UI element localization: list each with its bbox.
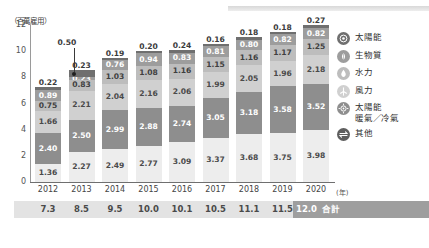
x-axis-line [30,182,335,183]
bar-segment: 1.16 [169,64,195,79]
bar-top-value-label: 0.23 [62,61,102,70]
legend-item-label: 水力 [355,67,373,78]
legend-item-label: 太陽能暖氣／冷氣 [355,102,399,123]
bar-segment: 1.15 [203,57,229,72]
segment-value-label: 3.52 [307,103,326,111]
x-axis-tick: 2015 [132,185,166,194]
bar-segment: 2.40 [35,133,61,164]
segment-value-label: 1.66 [39,118,58,126]
bar-segment: 2.88 [136,108,162,146]
segment-value-label: 0.75 [39,102,58,110]
bar-stack[interactable]: 0.831.162.062.743.09 [169,50,195,182]
bar-segment: 1.25 [303,39,329,55]
segment-value-label: 1.08 [139,69,158,77]
total-highlight-label: 合計 [322,201,340,218]
bar-stack[interactable]: 0.230.832.212.502.27 [69,70,95,182]
bar-segment: 2.49 [102,149,128,182]
segment-value-label: 3.75 [273,154,292,162]
segment-value-label: 0.82 [273,36,292,44]
bar-top-value-label: 0.22 [28,78,68,87]
segment-value-label: 0.76 [106,61,125,69]
legend-item-label: 風力 [355,85,373,96]
bar-stack[interactable]: 0.811.151.993.053.37 [203,44,229,182]
segment-value-label: 1.25 [307,43,326,51]
bar-segment: 2.18 [303,55,329,84]
x-axis-tick: 2013 [65,185,99,194]
solar-pv-icon [337,32,350,45]
legend-item-2[interactable]: 水力 [337,67,429,80]
bar-segment: 1.66 [35,111,61,133]
segment-value-label: 0.82 [307,30,326,38]
bar-segment: 1.36 [35,164,61,182]
bar-segment: 2.50 [69,120,95,153]
x-axis-tick: 2017 [199,185,233,194]
total-value: 11.1 [232,201,266,218]
legend-item-label: 其他 [355,128,373,139]
bar-stack[interactable]: 0.941.082.162.882.77 [136,51,162,182]
total-value: 9.5 [98,201,132,218]
segment-value-label: 2.88 [139,123,158,131]
legend-item-3[interactable]: 風力 [337,85,429,98]
legend-item-0[interactable]: 太陽能 [337,32,429,45]
segment-value-label: 2.49 [106,162,125,170]
segment-value-label: 2.16 [139,90,158,98]
other-arrows-icon [337,128,350,141]
bar-stack[interactable]: 0.801.162.053.183.68 [236,37,262,182]
bar-segment: 3.52 [303,84,329,130]
x-axis-tick: 2016 [165,185,199,194]
callout-leader-horizontal [74,48,75,49]
total-value: 10.0 [132,201,166,218]
segment-value-label: 2.06 [173,88,192,96]
bar-segment: 3.05 [203,98,229,138]
bar-stack[interactable]: 0.761.032.042.992.49 [102,58,128,182]
bar-stack[interactable]: 0.821.252.183.523.98 [303,25,329,182]
segment-value-label: 0.80 [240,41,259,49]
bar-segment: 1.17 [270,45,296,60]
bar-segment: 0.94 [136,53,162,65]
callout-anchor-dot [72,72,76,76]
bar-stack[interactable]: 0.821.171.963.583.75 [270,32,296,182]
segment-value-label: 3.09 [173,158,192,166]
top-decorative-band [228,6,429,11]
segment-value-label: 0.83 [72,81,91,89]
bar-segment: 1.16 [236,50,262,65]
bar-segment: 0.83 [69,80,95,91]
segment-value-label: 2.21 [72,101,91,109]
bar-stack[interactable]: 0.890.751.662.401.36 [35,87,61,182]
bar-segment: 2.04 [102,84,128,111]
segment-value-label: 1.16 [240,54,259,62]
segment-value-label: 1.99 [206,81,225,89]
segment-value-label: 3.98 [307,152,326,160]
legend-item-5[interactable]: 其他 [337,128,429,141]
bar-segment: 0.82 [303,28,329,39]
segment-value-label: 0.81 [206,48,225,56]
bar-segment: 2.06 [169,79,195,106]
legend-item-label: 生物質 [355,50,381,61]
total-value: 10.1 [165,201,199,218]
segment-value-label: 1.17 [273,49,292,57]
segment-value-label: 3.58 [273,106,292,114]
bar-segment: 0.89 [35,90,61,102]
legend-item-1[interactable]: 生物質 [337,50,429,63]
y-axis-tick: 10 [6,46,26,55]
bar-segment: 3.58 [270,86,296,133]
legend-item-4[interactable]: 太陽能暖氣／冷氣 [337,102,429,123]
bar-segment: 3.75 [270,133,296,182]
segment-value-label: 2.18 [307,66,326,74]
bar-segment: 0.75 [35,101,61,111]
bar-segment: 0.81 [203,46,229,57]
segment-value-label: 0.89 [39,92,58,100]
bar-segment: 0.80 [236,40,262,50]
bar-segment: 2.05 [236,65,262,92]
x-axis-unit-label: (年) [336,187,348,197]
segment-value-label: 1.15 [206,61,225,69]
callout-value-label: 0.50 [58,38,77,47]
solar-thermal-icon [337,102,350,115]
bar-segment: 1.03 [102,70,128,83]
bar-segment: 2.74 [169,106,195,142]
bar-segment: 2.16 [136,80,162,108]
bar-segment: 2.99 [102,110,128,149]
segment-value-label: 1.03 [106,73,125,81]
segment-value-label: 2.99 [106,126,125,134]
biomass-leaf-icon [337,50,350,63]
